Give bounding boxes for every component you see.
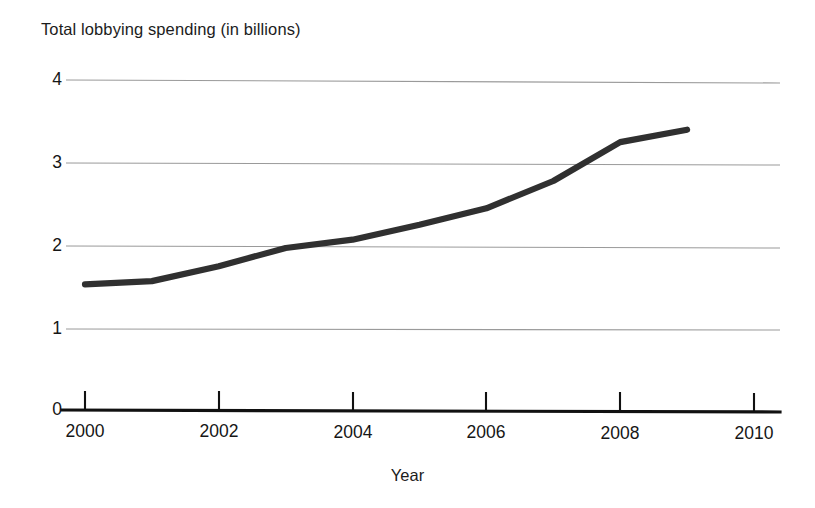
xtick-label-2004: 2004	[313, 422, 393, 443]
xtick-label-2010: 2010	[714, 423, 794, 444]
xtick-label-2008: 2008	[580, 423, 660, 444]
line-chart: Total lobbying spending (in billions) 4 …	[0, 0, 815, 508]
series-line-total-lobbying-spending	[85, 130, 687, 285]
x-axis-title: Year	[0, 466, 815, 485]
gridline-4	[66, 80, 780, 83]
ytick-label-3: 3	[28, 152, 62, 173]
gridline-3	[66, 163, 780, 165]
ytick-label-1: 1	[28, 318, 62, 339]
xtick-label-2000: 2000	[45, 421, 125, 442]
gridline-2	[66, 246, 780, 248]
gridlines	[66, 80, 780, 330]
gridline-1	[66, 329, 780, 330]
ytick-label-4: 4	[28, 69, 62, 90]
xtick-label-2006: 2006	[446, 422, 526, 443]
ytick-label-2: 2	[28, 235, 62, 256]
xtick-label-2002: 2002	[179, 421, 259, 442]
ytick-label-0: 0	[28, 399, 62, 420]
x-axis	[62, 391, 780, 412]
x-axis-line	[62, 410, 780, 412]
